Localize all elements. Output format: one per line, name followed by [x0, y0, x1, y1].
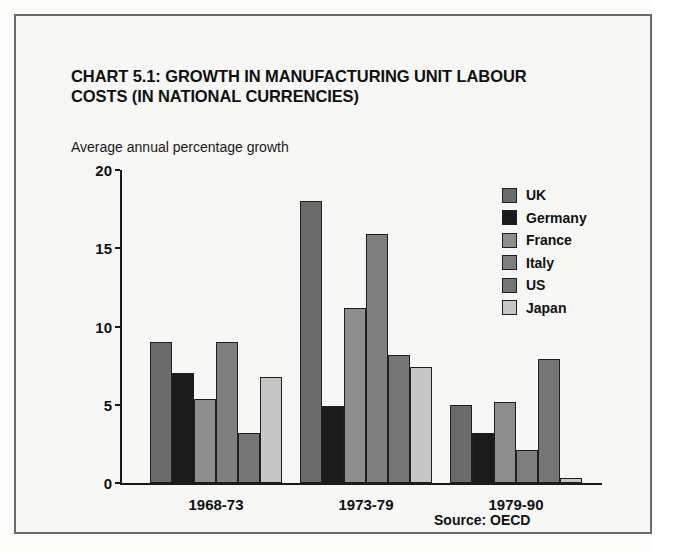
bar-uk-1979-90[interactable]: [450, 405, 472, 483]
bar-uk-1973-79[interactable]: [300, 201, 322, 483]
bar-italy-1968-73[interactable]: [216, 342, 238, 483]
x-tick-label: 1979-90: [450, 496, 582, 513]
y-tick-mark: [115, 326, 120, 328]
y-tick-label: 10: [95, 318, 112, 335]
y-tick-mark: [115, 169, 120, 171]
y-axis: [120, 170, 122, 483]
bar-japan-1973-79[interactable]: [410, 367, 432, 483]
bar-us-1979-90[interactable]: [538, 359, 560, 483]
bar-germany-1968-73[interactable]: [172, 373, 194, 483]
chart-page: CHART 5.1: GROWTH IN MANUFACTURING UNIT …: [0, 0, 688, 551]
chart-subtitle: Average annual percentage growth: [71, 139, 289, 155]
page-right-margin: [652, 0, 688, 551]
bar-group: [150, 170, 282, 483]
bar-us-1968-73[interactable]: [238, 433, 260, 483]
chart-frame: CHART 5.1: GROWTH IN MANUFACTURING UNIT …: [14, 14, 652, 534]
legend-swatch-us: [502, 278, 517, 293]
page-title: CHART 5.1: GROWTH IN MANUFACTURING UNIT …: [71, 66, 541, 106]
y-tick-label: 20: [95, 162, 112, 179]
bar-japan-1979-90[interactable]: [560, 478, 582, 483]
legend-label: UK: [526, 187, 546, 203]
legend: UKGermanyFranceItalyUSJapan: [502, 184, 587, 319]
bar-germany-1979-90[interactable]: [472, 433, 494, 483]
y-tick-mark: [115, 482, 120, 484]
legend-label: Italy: [526, 255, 554, 271]
y-tick-label: 5: [104, 396, 112, 413]
legend-swatch-germany: [502, 210, 517, 225]
legend-item-france[interactable]: France: [502, 229, 587, 252]
y-tick-label: 15: [95, 240, 112, 257]
y-tick-label: 0: [104, 475, 112, 492]
legend-label: Japan: [526, 300, 566, 316]
y-tick-mark: [115, 404, 120, 406]
legend-label: Germany: [526, 210, 587, 226]
legend-swatch-italy: [502, 255, 517, 270]
bar-italy-1973-79[interactable]: [366, 234, 388, 483]
legend-swatch-uk: [502, 188, 517, 203]
legend-item-japan[interactable]: Japan: [502, 297, 587, 320]
legend-item-germany[interactable]: Germany: [502, 207, 587, 230]
legend-swatch-japan: [502, 300, 517, 315]
bar-france-1973-79[interactable]: [344, 308, 366, 483]
figure: CHART 5.1: GROWTH IN MANUFACTURING UNIT …: [16, 16, 654, 536]
bar-japan-1968-73[interactable]: [260, 377, 282, 483]
legend-item-italy[interactable]: Italy: [502, 252, 587, 275]
legend-label: France: [526, 232, 572, 248]
legend-label: US: [526, 277, 545, 293]
legend-item-uk[interactable]: UK: [502, 184, 587, 207]
bar-us-1973-79[interactable]: [388, 355, 410, 483]
legend-swatch-france: [502, 233, 517, 248]
source-note: Source: OECD: [434, 512, 530, 528]
x-axis: [120, 483, 602, 485]
x-tick-label: 1973-79: [300, 496, 432, 513]
bar-france-1968-73[interactable]: [194, 399, 216, 484]
x-tick-label: 1968-73: [150, 496, 282, 513]
legend-item-us[interactable]: US: [502, 274, 587, 297]
bar-italy-1979-90[interactable]: [516, 450, 538, 483]
bar-france-1979-90[interactable]: [494, 402, 516, 483]
bar-group: [300, 170, 432, 483]
bar-germany-1973-79[interactable]: [322, 406, 344, 483]
y-tick-mark: [115, 247, 120, 249]
bar-uk-1968-73[interactable]: [150, 342, 172, 483]
